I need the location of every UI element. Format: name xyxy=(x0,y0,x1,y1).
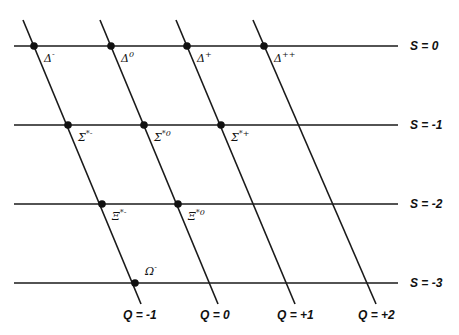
particle-label: Ξ*0 xyxy=(187,208,205,223)
particle-dot xyxy=(98,200,106,208)
particle-label: Δ+ xyxy=(196,50,212,65)
strangeness-label: S = 0 xyxy=(410,39,439,53)
particle-dot xyxy=(30,42,38,50)
decuplet-diagram: Δ-Δ0Δ+Δ++Σ*-Σ*0Σ*+Ξ*-Ξ*0Ω- S = 0S = -1S … xyxy=(0,0,459,335)
particle-label: Δ++ xyxy=(273,50,295,65)
strangeness-label: S = -3 xyxy=(410,276,443,290)
particle-label: Σ*0 xyxy=(153,129,171,144)
charge-labels: Q = -1Q = 0Q = +1Q = +2 xyxy=(123,308,395,322)
particle-label: Δ- xyxy=(43,50,55,65)
particle-dot xyxy=(131,279,139,287)
strangeness-label: S = -1 xyxy=(410,118,443,132)
particle-label: Ξ*- xyxy=(111,208,127,223)
particle-dot xyxy=(217,121,225,129)
charge-label: Q = +2 xyxy=(358,308,395,322)
charge-label: Q = +1 xyxy=(277,308,314,322)
charge-line xyxy=(253,20,376,304)
particle-labels: Δ-Δ0Δ+Δ++Σ*-Σ*0Σ*+Ξ*-Ξ*0Ω- xyxy=(43,50,295,278)
charge-label: Q = 0 xyxy=(200,308,230,322)
particle-dot xyxy=(260,42,268,50)
charge-label: Q = -1 xyxy=(123,308,157,322)
strangeness-label: S = -2 xyxy=(410,197,443,211)
particle-dot xyxy=(183,42,191,50)
particle-dot xyxy=(64,121,72,129)
particle-label: Σ*+ xyxy=(230,129,249,144)
particle-dot xyxy=(107,42,115,50)
particle-label: Ω- xyxy=(144,263,157,278)
particle-dot xyxy=(174,200,182,208)
particle-label: Δ0 xyxy=(120,50,134,65)
strangeness-labels: S = 0S = -1S = -2S = -3 xyxy=(410,39,443,290)
strangeness-lines xyxy=(14,46,398,283)
particle-dots xyxy=(30,42,268,287)
particle-dot xyxy=(140,121,148,129)
particle-label: Σ*- xyxy=(77,129,93,144)
